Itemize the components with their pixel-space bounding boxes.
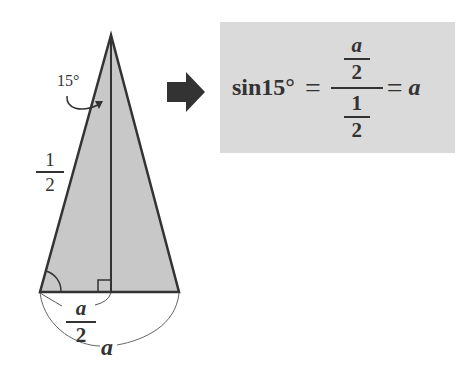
formula-lhs: sin15° <box>232 74 295 101</box>
half-base-label: a 2 <box>66 298 96 346</box>
right-arrow-icon <box>167 72 205 112</box>
half-base-arc-right <box>95 293 111 305</box>
denominator-1: 1 <box>352 93 363 114</box>
formula-box: sin15° = a 2 1 2 = a <box>220 22 455 153</box>
base-length-label: a <box>101 335 113 359</box>
apex-angle-label: 15° <box>57 72 79 90</box>
half-base-numerator: a <box>76 298 87 319</box>
equals-sign: = <box>305 72 321 104</box>
half-base-denominator: 2 <box>76 325 87 346</box>
numerator-2: 2 <box>352 62 363 83</box>
side-length-label: 1 2 <box>36 150 64 194</box>
numerator-a: a <box>352 35 363 56</box>
main-fraction: a 2 1 2 <box>331 35 383 141</box>
base-arc-right <box>117 293 179 345</box>
equals-sign: = <box>387 72 403 104</box>
main-numerator: a 2 <box>344 35 370 83</box>
side-label-denominator: 2 <box>45 175 55 194</box>
half-base-arc-left <box>40 293 62 306</box>
formula-rhs: a <box>409 74 421 101</box>
main-fraction-bar <box>331 87 383 89</box>
main-denominator: 1 2 <box>344 93 370 141</box>
fraction-bar <box>36 171 64 173</box>
side-label-numerator: 1 <box>45 150 55 169</box>
denominator-2: 2 <box>352 120 363 141</box>
formula: sin15° = a 2 1 2 = a <box>232 22 421 153</box>
